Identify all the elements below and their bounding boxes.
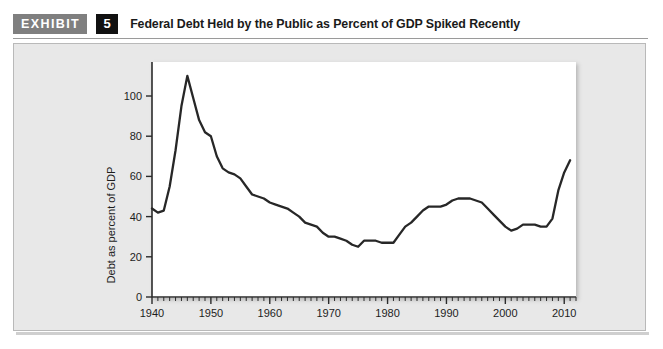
page-title: Federal Debt Held by the Public as Perce… [130, 17, 520, 31]
exhibit-header: EXHIBIT 5 Federal Debt Held by the Publi… [13, 12, 648, 36]
panel-shadow [16, 332, 649, 335]
exhibit-kicker-badge: EXHIBIT [13, 14, 87, 34]
plot-card [152, 62, 576, 298]
header-divider [13, 38, 648, 39]
exhibit-figure: EXHIBIT 5 Federal Debt Held by the Publi… [0, 0, 663, 349]
exhibit-number-badge: 5 [96, 14, 118, 34]
